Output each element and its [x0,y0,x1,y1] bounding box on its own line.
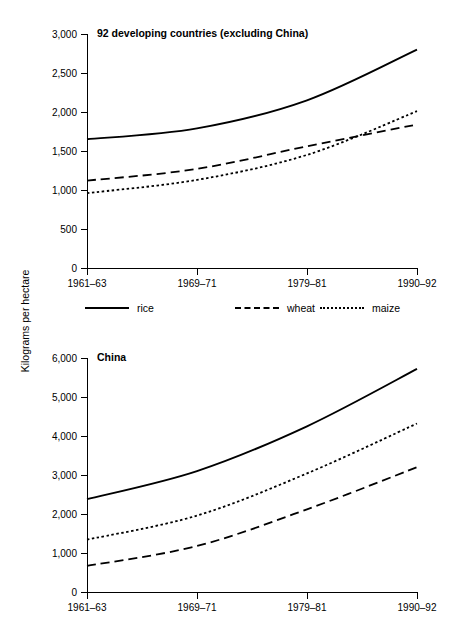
figure-root: Kilograms per hectare 92 developing coun… [0,0,456,642]
series-line-maize [87,424,417,540]
series-line-rice [87,369,417,499]
chart-panel-china: China 01,0002,0003,0004,0005,0006,000196… [0,0,456,642]
series-line-wheat [87,467,417,566]
series-plot-china [0,0,456,642]
